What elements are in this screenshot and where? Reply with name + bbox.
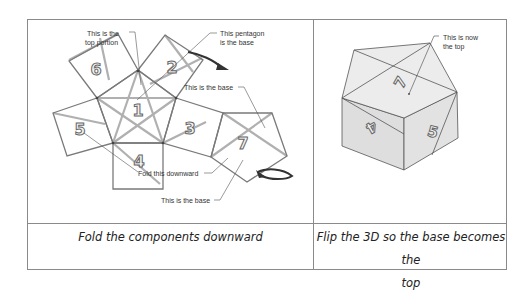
net-diagram: 6 2 1 5 3 4 7 This is the top portion Th… <box>53 30 292 204</box>
annotation-base-upper: This is the base <box>184 84 233 91</box>
annotation-pentagon-base-line1: This pentagon <box>220 30 264 38</box>
annotation-base-lower: This is the base <box>161 197 210 204</box>
solid-diagram: 7 4 5 This is now the top <box>342 34 479 170</box>
annotation-fold-downward: Fold this downward <box>138 170 198 177</box>
leader-base-lower <box>214 160 243 200</box>
net-annotations: This is the top portion This pentagon is… <box>84 30 265 204</box>
annotation-now-top-line1: This is now <box>443 34 479 41</box>
fold-arrow-lower <box>256 169 292 179</box>
face-7-number: 7 <box>237 134 248 153</box>
leader-now-top-dot <box>408 93 410 95</box>
annotation-pentagon-base-line2: is the base <box>220 39 254 46</box>
face-1-number: 1 <box>132 101 143 120</box>
annotation-now-top-line2: the top <box>443 43 465 51</box>
annotation-top-portion-line2: top portion <box>85 39 118 47</box>
fold-lines <box>53 34 287 184</box>
face-4-number: 4 <box>133 152 144 171</box>
face-3-number: 3 <box>184 119 195 138</box>
face-6-number: 6 <box>90 60 101 79</box>
face-5-number: 5 <box>74 120 85 139</box>
annotation-top-portion-line1: This is the <box>87 30 119 37</box>
